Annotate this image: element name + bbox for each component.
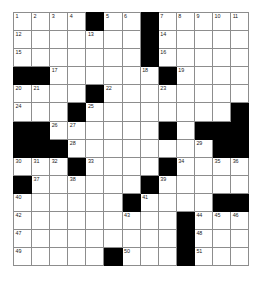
grid-cell[interactable]: [68, 212, 86, 230]
grid-cell[interactable]: [32, 103, 50, 121]
grid-cell[interactable]: [122, 175, 140, 193]
grid-cell[interactable]: [122, 139, 140, 157]
grid-cell[interactable]: [50, 85, 68, 103]
grid-cell[interactable]: 6: [122, 13, 140, 31]
grid-cell[interactable]: 33: [86, 157, 104, 175]
grid-cell[interactable]: 34: [176, 157, 194, 175]
grid-cell[interactable]: [140, 121, 158, 139]
grid-cell[interactable]: 36: [231, 157, 249, 175]
grid-cell[interactable]: [140, 85, 158, 103]
grid-cell[interactable]: 18: [140, 67, 158, 85]
grid-cell[interactable]: 23: [158, 85, 176, 103]
grid-cell[interactable]: [50, 49, 68, 67]
grid-cell[interactable]: [176, 193, 194, 211]
grid-cell[interactable]: 45: [213, 212, 231, 230]
grid-cell[interactable]: [68, 31, 86, 49]
grid-cell[interactable]: 22: [104, 85, 122, 103]
grid-cell[interactable]: [158, 139, 176, 157]
grid-cell[interactable]: [231, 230, 249, 248]
grid-cell[interactable]: [122, 31, 140, 49]
grid-cell[interactable]: [86, 248, 104, 266]
grid-cell[interactable]: [104, 67, 122, 85]
grid-cell[interactable]: 27: [68, 121, 86, 139]
grid-cell[interactable]: [86, 49, 104, 67]
grid-cell[interactable]: 15: [14, 49, 32, 67]
grid-cell[interactable]: 19: [176, 67, 194, 85]
grid-cell[interactable]: [158, 193, 176, 211]
grid-cell[interactable]: [158, 103, 176, 121]
grid-cell[interactable]: [68, 230, 86, 248]
grid-cell[interactable]: [231, 175, 249, 193]
grid-cell[interactable]: [176, 121, 194, 139]
grid-cell[interactable]: 25: [86, 103, 104, 121]
grid-cell[interactable]: 41: [140, 193, 158, 211]
grid-cell[interactable]: [231, 248, 249, 266]
grid-cell[interactable]: [50, 193, 68, 211]
grid-cell[interactable]: [104, 212, 122, 230]
grid-cell[interactable]: [32, 31, 50, 49]
grid-cell[interactable]: 12: [14, 31, 32, 49]
grid-cell[interactable]: [194, 67, 212, 85]
grid-cell[interactable]: 42: [14, 212, 32, 230]
grid-cell[interactable]: [122, 230, 140, 248]
grid-cell[interactable]: [86, 193, 104, 211]
grid-cell[interactable]: [104, 121, 122, 139]
grid-cell[interactable]: [140, 248, 158, 266]
grid-cell[interactable]: [104, 193, 122, 211]
grid-cell[interactable]: [68, 67, 86, 85]
grid-cell[interactable]: 16: [158, 49, 176, 67]
grid-cell[interactable]: [213, 175, 231, 193]
grid-cell[interactable]: [104, 103, 122, 121]
grid-cell[interactable]: [176, 31, 194, 49]
grid-cell[interactable]: [32, 212, 50, 230]
grid-cell[interactable]: [140, 139, 158, 157]
grid-cell[interactable]: [122, 85, 140, 103]
grid-cell[interactable]: [231, 31, 249, 49]
grid-cell[interactable]: [158, 248, 176, 266]
grid-cell[interactable]: [68, 85, 86, 103]
grid-cell[interactable]: 51: [194, 248, 212, 266]
grid-cell[interactable]: [122, 67, 140, 85]
grid-cell[interactable]: [213, 103, 231, 121]
grid-cell[interactable]: 3: [50, 13, 68, 31]
grid-cell[interactable]: 8: [176, 13, 194, 31]
grid-cell[interactable]: 29: [194, 139, 212, 157]
grid-cell[interactable]: 40: [14, 193, 32, 211]
grid-cell[interactable]: [176, 85, 194, 103]
grid-cell[interactable]: [50, 175, 68, 193]
grid-cell[interactable]: [104, 139, 122, 157]
grid-cell[interactable]: 21: [32, 85, 50, 103]
grid-cell[interactable]: 28: [68, 139, 86, 157]
grid-cell[interactable]: 35: [213, 157, 231, 175]
grid-cell[interactable]: 38: [68, 175, 86, 193]
grid-cell[interactable]: [176, 175, 194, 193]
grid-cell[interactable]: [231, 85, 249, 103]
grid-cell[interactable]: 44: [194, 212, 212, 230]
grid-cell[interactable]: [122, 49, 140, 67]
grid-cell[interactable]: 1: [14, 13, 32, 31]
grid-cell[interactable]: [158, 230, 176, 248]
grid-cell[interactable]: [104, 175, 122, 193]
grid-cell[interactable]: [104, 230, 122, 248]
grid-cell[interactable]: [158, 212, 176, 230]
grid-cell[interactable]: [68, 248, 86, 266]
grid-cell[interactable]: [86, 175, 104, 193]
grid-cell[interactable]: [194, 31, 212, 49]
grid-cell[interactable]: [213, 230, 231, 248]
grid-cell[interactable]: [50, 31, 68, 49]
grid-cell[interactable]: [86, 139, 104, 157]
grid-cell[interactable]: [140, 103, 158, 121]
grid-cell[interactable]: 2: [32, 13, 50, 31]
grid-cell[interactable]: [122, 103, 140, 121]
grid-cell[interactable]: [231, 49, 249, 67]
grid-cell[interactable]: [32, 49, 50, 67]
grid-cell[interactable]: [176, 139, 194, 157]
crossword-grid[interactable]: 1234567891011121314151617181920212223242…: [13, 12, 249, 266]
grid-cell[interactable]: [194, 193, 212, 211]
grid-cell[interactable]: 20: [14, 85, 32, 103]
grid-cell[interactable]: [86, 212, 104, 230]
grid-cell[interactable]: 43: [122, 212, 140, 230]
grid-cell[interactable]: [50, 248, 68, 266]
grid-cell[interactable]: [32, 248, 50, 266]
grid-cell[interactable]: [213, 248, 231, 266]
